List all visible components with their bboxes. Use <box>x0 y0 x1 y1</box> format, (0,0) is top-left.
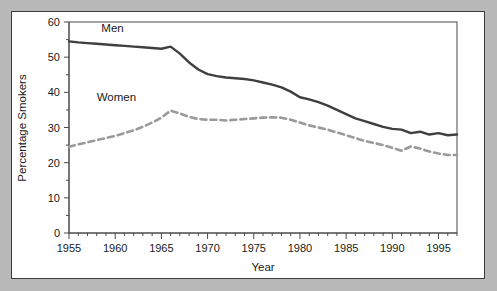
x-axis-tick-label: 1965 <box>149 242 173 254</box>
x-axis: 195519601965197019751980198519901995 <box>57 233 457 254</box>
x-axis-tick-label: 1985 <box>334 242 358 254</box>
plot-area-border <box>69 22 457 233</box>
x-axis-tick-label: 1980 <box>288 242 312 254</box>
page-top-band <box>0 0 497 9</box>
y-axis-tick-label: 0 <box>54 227 60 239</box>
y-axis-title: Percentage Smokers <box>16 74 28 182</box>
x-axis-tick-label: 1995 <box>426 242 450 254</box>
x-axis-tick-label: 1955 <box>57 242 81 254</box>
page-bottom-band <box>0 281 497 291</box>
line-chart: 0102030405060 19551960196519701975198019… <box>12 12 484 278</box>
x-axis-tick-label: 1970 <box>195 242 219 254</box>
y-axis-tick-label: 10 <box>48 192 60 204</box>
x-axis-tick-label: 1990 <box>380 242 404 254</box>
y-axis-tick-label: 50 <box>48 51 60 63</box>
series-inline-labels: MenWomen <box>97 22 136 104</box>
y-axis-tick-label: 20 <box>48 157 60 169</box>
y-axis-tick-label: 30 <box>48 122 60 134</box>
x-axis-tick-label: 1975 <box>242 242 266 254</box>
x-axis-title: Year <box>251 261 274 273</box>
series-line-men <box>69 41 457 135</box>
y-axis: 0102030405060 <box>48 16 69 239</box>
y-axis-tick-label: 40 <box>48 86 60 98</box>
x-axis-tick-label: 1960 <box>103 242 127 254</box>
figure-root: 0102030405060 19551960196519701975198019… <box>0 0 497 291</box>
series-label-men: Men <box>101 22 123 34</box>
y-axis-tick-label: 60 <box>48 16 60 28</box>
page-sheet: 0102030405060 19551960196519701975198019… <box>11 11 485 279</box>
series-line-women <box>69 111 457 155</box>
series-label-women: Women <box>97 91 136 103</box>
plot-frame <box>69 22 457 233</box>
